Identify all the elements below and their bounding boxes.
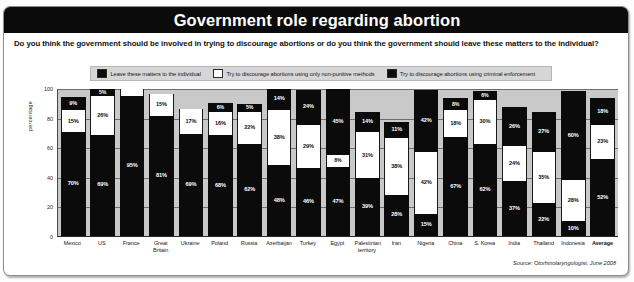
bar-segment[interactable]: 62% [473, 144, 498, 236]
bar-column[interactable]: 14%31%39% [355, 89, 380, 236]
bar-segment[interactable]: 52% [590, 159, 615, 236]
bar-segment[interactable]: 60% [561, 91, 586, 180]
bar-segment-value: 16% [215, 121, 226, 127]
bar-column[interactable]: 5%26%69% [90, 89, 115, 236]
bar-segment[interactable]: 15% [414, 214, 439, 236]
bar-column[interactable]: 17%69% [179, 89, 204, 236]
bar-segment[interactable]: 5% [90, 89, 115, 96]
bar-segment[interactable]: 6% [473, 91, 498, 100]
bar-segment-value: 22% [538, 217, 549, 223]
x-axis-tick-label: Iran [384, 240, 409, 266]
bar-segment-value: 14% [362, 119, 373, 125]
bar-segment-value: 23% [597, 139, 608, 145]
bar-segment-value: 28% [568, 198, 579, 204]
bar-segment[interactable]: 11% [384, 122, 409, 138]
bar-segment[interactable]: 48% [267, 165, 292, 236]
bar-column[interactable]: 24%29%46% [296, 89, 321, 236]
bar-segment[interactable]: 6% [208, 103, 233, 112]
bar-segment[interactable]: 14% [267, 89, 292, 110]
bar-segment[interactable]: 9% [61, 97, 86, 110]
bar-segment[interactable]: 5% [237, 104, 262, 111]
bar-segment[interactable]: 28% [384, 195, 409, 236]
bar-column[interactable]: 27%35%22% [532, 89, 557, 236]
bar-column[interactable]: 18%23%52% [590, 89, 615, 236]
bar-column[interactable]: 42%42%15% [414, 89, 439, 236]
bar-segment[interactable]: 81% [149, 116, 174, 236]
bar-segment[interactable]: 8% [326, 155, 351, 167]
bar-segment-value: 15% [68, 119, 79, 125]
bar-segment[interactable]: 26% [90, 96, 115, 134]
bar-segment[interactable]: 31% [355, 132, 380, 178]
bar-segment[interactable]: 18% [590, 98, 615, 125]
bar-segment[interactable]: 42% [414, 90, 439, 152]
bar-segment[interactable]: 37% [502, 181, 527, 236]
bar-segment[interactable]: 16% [208, 112, 233, 136]
bar-column[interactable]: 5%22%62% [237, 89, 262, 236]
bar-segment[interactable]: 24% [502, 146, 527, 182]
bar-segment[interactable]: 28% [561, 180, 586, 221]
bar-segment[interactable]: 68% [208, 135, 233, 236]
bar-segment[interactable]: 95% [120, 96, 145, 236]
source-note: Source: Otorhinolaryngologist, June 2008 [513, 260, 616, 266]
bar-column[interactable]: 14%38%48% [267, 89, 292, 236]
bar-segment[interactable]: 29% [296, 125, 321, 168]
bar-column[interactable]: 6%30%62% [473, 89, 498, 236]
bar-segment-value: 42% [421, 118, 432, 124]
bar-column[interactable]: 8%18%67% [443, 89, 468, 236]
bar-segment[interactable]: 62% [237, 144, 262, 236]
bar-segment[interactable]: 10% [561, 221, 586, 236]
bar-segment[interactable]: 69% [179, 134, 204, 236]
bar-segment[interactable]: 38% [267, 110, 292, 166]
bar-segment-value: 9% [69, 101, 77, 107]
bar-segment[interactable]: 22% [237, 112, 262, 145]
bar-column[interactable]: 9%15%70% [61, 89, 86, 236]
bar-segment[interactable]: 46% [296, 168, 321, 236]
bar-column[interactable]: 95% [120, 89, 145, 236]
x-axis-tick-label: Egypt [325, 240, 350, 266]
bar-column[interactable]: 11%38%28% [384, 89, 409, 236]
bar-segment-value: 18% [450, 121, 461, 127]
bar-segment[interactable]: 70% [61, 132, 86, 236]
bar-column[interactable]: 60%28%10% [561, 89, 586, 236]
bar-segment[interactable]: 14% [355, 112, 380, 133]
legend-swatch-icon [387, 69, 397, 78]
bar-segment-value: 52% [597, 195, 608, 201]
chart-legend: Leave these matters to the individualTry… [90, 66, 552, 81]
bar-segment[interactable]: 17% [179, 109, 204, 134]
bar-segment[interactable]: 30% [473, 100, 498, 144]
bar-segment[interactable]: 24% [296, 90, 321, 126]
survey-question: Do you think the government should be in… [14, 39, 620, 48]
bar-segment[interactable]: 42% [414, 152, 439, 214]
bar-segment[interactable]: 69% [90, 135, 115, 236]
bar-segment[interactable]: 38% [384, 138, 409, 194]
x-axis-tick-label: Mexico [60, 240, 85, 266]
bar-segment[interactable]: 15% [61, 110, 86, 132]
bar-segment[interactable]: 67% [443, 137, 468, 236]
bar-segment-value: 8% [334, 158, 341, 163]
bar-segment[interactable] [120, 89, 145, 96]
bar-segment[interactable]: 23% [590, 125, 615, 159]
bar-segment[interactable]: 45% [326, 89, 351, 155]
bar-segment-value: 24% [509, 161, 520, 167]
legend-item-label: Try to discourage abortions using crimin… [400, 71, 535, 77]
bar-column[interactable]: 45%8%47% [326, 89, 351, 236]
bar-column[interactable]: 6%16%68% [208, 89, 233, 236]
bar-segment[interactable]: 27% [532, 112, 557, 152]
bar-segment-value: 81% [156, 173, 167, 179]
bar-segment-value: 10% [568, 226, 579, 232]
bar-segment[interactable]: 39% [355, 178, 380, 236]
bar-segment[interactable]: 35% [532, 152, 557, 204]
bar-segment[interactable]: 18% [443, 110, 468, 137]
x-axis-tick-label: France [119, 240, 144, 266]
legend-swatch-icon [97, 69, 107, 78]
bar-segment[interactable]: 22% [532, 203, 557, 236]
bar-segment-value: 38% [391, 164, 402, 170]
bar-column[interactable]: 26%24%37% [502, 89, 527, 236]
bar-segment[interactable]: 8% [443, 98, 468, 110]
bar-segment[interactable]: 15% [149, 94, 174, 116]
bar-column[interactable]: 15%81% [149, 89, 174, 236]
bar-segment-value: 42% [421, 180, 432, 186]
x-axis-tick-label: US [89, 240, 114, 266]
bar-segment[interactable]: 47% [326, 167, 351, 236]
bar-segment[interactable]: 26% [502, 107, 527, 145]
